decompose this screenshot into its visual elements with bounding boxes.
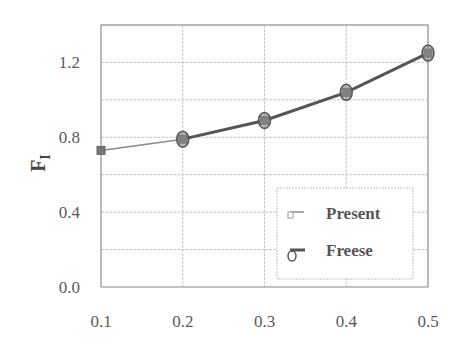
square-marker-icon [288,212,293,218]
x-tick-label: 0.5 [417,312,438,331]
y-axis-label: FI [27,154,53,172]
circle-marker-icon [340,84,352,100]
circle-marker-icon [259,112,271,128]
x-tick-label: 0.4 [336,312,358,331]
y-axis-ticks: 0.00.40.81.2 [59,53,81,297]
series-line-freese [183,53,428,139]
x-tick-label: 0.3 [254,312,275,331]
x-tick-label: 0.2 [172,312,193,331]
circle-marker-icon [177,131,189,147]
x-axis-ticks: 0.10.20.30.40.5 [90,312,438,331]
x-tick-label: 0.1 [90,312,111,331]
y-tick-label: 0.4 [59,203,81,222]
y-tick-label: 1.2 [59,53,80,72]
circle-marker-icon [422,45,434,61]
y-tick-label: 0.8 [59,128,80,147]
legend: Present Freese [277,188,413,279]
legend-label-freese: Freese [326,241,373,260]
square-marker-icon [97,146,105,154]
y-tick-label: 0.0 [59,278,80,297]
legend-label-present: Present [326,204,381,223]
chart: 0.00.40.81.2 0.10.20.30.40.5 FI Present … [0,0,463,353]
legend-box [277,188,413,279]
